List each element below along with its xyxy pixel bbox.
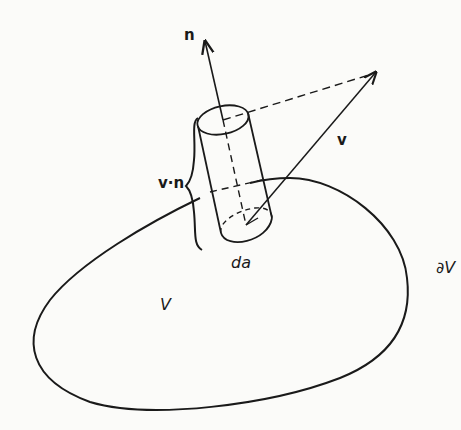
label-projection: v·n bbox=[158, 176, 184, 191]
diagram-canvas: n v v·n da V ∂V bbox=[0, 0, 461, 430]
cylinder-element bbox=[195, 101, 272, 242]
volume-boundary-curve bbox=[34, 178, 408, 410]
diagram-svg bbox=[0, 0, 461, 430]
height-brace bbox=[186, 118, 202, 250]
label-boundary: ∂V bbox=[436, 260, 455, 276]
label-vector: v bbox=[337, 133, 347, 148]
projection-dashed-line bbox=[223, 74, 372, 120]
label-volume: V bbox=[160, 297, 171, 313]
label-area-element: da bbox=[231, 255, 251, 271]
label-normal: n bbox=[184, 28, 195, 43]
